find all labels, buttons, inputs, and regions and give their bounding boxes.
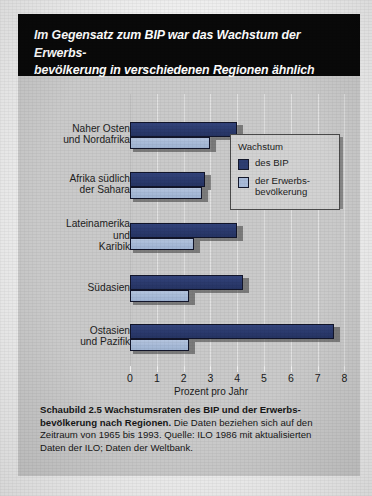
legend-swatch-population-icon — [238, 177, 249, 188]
bar-gdp-row-2 — [130, 172, 205, 187]
category-label-2: Afrika südlichder Sahara — [0, 173, 130, 196]
category-label-line: und Nordafrika — [0, 134, 130, 146]
bar-population-row-5 — [130, 339, 189, 351]
bar-gdp-row-5 — [130, 324, 334, 339]
legend-item-gdp: des BIP — [238, 157, 332, 170]
category-label-4: Südasien — [0, 282, 130, 294]
category-label-3: LateinamerikaundKaribik — [0, 218, 130, 253]
category-label-line: Afrika südlich — [0, 173, 130, 185]
category-label-line: Lateinamerika — [0, 218, 130, 230]
category-label-line: und Pazifik — [0, 336, 130, 348]
category-label-1: Naher Ostenund Nordafrika — [0, 123, 130, 146]
bar-gdp-row-1 — [130, 122, 237, 137]
legend-label-population: der Erwerbs-bevölkerung — [255, 175, 310, 197]
x-tick-label-8: 8 — [334, 372, 354, 384]
x-tick-label-4: 4 — [227, 372, 247, 384]
legend-swatch-gdp-icon — [238, 159, 249, 170]
category-label-line: Naher Osten — [0, 123, 130, 135]
chart-plot-area: 012345678 Naher Ostenund NordafrikaAfrik… — [18, 76, 360, 396]
x-axis-title-text: Prozent pro Jahr — [174, 386, 248, 397]
x-tick-label-3: 3 — [200, 372, 220, 384]
x-tick-label-7: 7 — [308, 372, 328, 384]
legend-label-gdp: des BIP — [255, 157, 289, 168]
bar-population-row-4 — [130, 290, 189, 302]
gridline-8 — [344, 94, 345, 366]
category-label-line: und — [0, 230, 130, 242]
figure-title-banner: Im Gegensatz zum BIP war das Wachstum de… — [18, 14, 360, 76]
category-label-line: Karibik — [0, 241, 130, 253]
figure-title-line-1: Im Gegensatz zum BIP war das Wachstum de… — [34, 27, 344, 62]
category-label-line: Südasien — [0, 282, 130, 294]
category-label-line: Ostasien — [0, 325, 130, 337]
legend-title: Wachstum — [238, 141, 332, 152]
x-axis-title: Prozent pro Jahr — [18, 386, 360, 397]
chart-legend: Wachstum des BIP der Erwerbs-bevölkerung — [230, 134, 340, 210]
bar-gdp-row-4 — [130, 275, 243, 290]
x-tick-label-1: 1 — [147, 372, 167, 384]
x-tick-label-5: 5 — [254, 372, 274, 384]
bar-population-row-2 — [130, 187, 202, 199]
figure-panel: Im Gegensatz zum BIP war das Wachstum de… — [18, 14, 360, 476]
category-label-5: Ostasienund Pazifik — [0, 325, 130, 348]
figure-caption: Schaubild 2.5 Wachstumsraten des BIP und… — [18, 404, 360, 454]
bar-gdp-row-3 — [130, 223, 237, 238]
x-tick-label-2: 2 — [174, 372, 194, 384]
category-label-line: der Sahara — [0, 184, 130, 196]
scanned-page: Im Gegensatz zum BIP war das Wachstum de… — [0, 0, 372, 496]
legend-item-population: der Erwerbs-bevölkerung — [238, 175, 332, 197]
bar-population-row-3 — [130, 238, 194, 250]
bar-population-row-1 — [130, 137, 210, 149]
x-tick-label-0: 0 — [120, 372, 140, 384]
x-tick-label-6: 6 — [281, 372, 301, 384]
